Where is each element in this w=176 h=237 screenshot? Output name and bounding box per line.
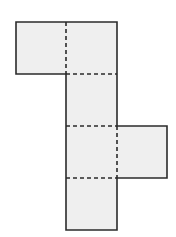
face-top <box>66 22 117 74</box>
face-bottom <box>66 178 117 230</box>
face-top-left <box>16 22 66 74</box>
face-middle-2 <box>66 126 117 178</box>
face-middle-1 <box>66 74 117 126</box>
face-right <box>117 126 167 178</box>
cube-net-diagram <box>0 0 176 237</box>
